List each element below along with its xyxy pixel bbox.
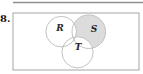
textbook-exercise-figure: 8. R S T bbox=[0, 0, 143, 74]
venn-diagram: R S T bbox=[0, 0, 143, 74]
label-set-r: R bbox=[55, 23, 64, 33]
label-set-s: S bbox=[91, 24, 98, 34]
